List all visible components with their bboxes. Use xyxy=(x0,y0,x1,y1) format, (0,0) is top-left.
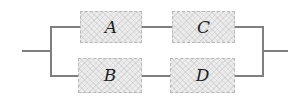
block-c-label: C xyxy=(197,19,210,36)
left-junction-wire xyxy=(50,26,52,77)
wire-block-b-to-block-d xyxy=(142,75,170,77)
wire-block-a-to-block-c xyxy=(142,26,172,28)
wire-block-c-to-junction xyxy=(235,26,264,28)
block-d-label: D xyxy=(196,67,210,84)
wire-block-d-to-junction xyxy=(235,75,264,77)
block-diagram: A C B D xyxy=(0,0,293,104)
input-lead-wire xyxy=(22,50,51,52)
block-a-label: A xyxy=(105,19,117,36)
block-b: B xyxy=(78,58,142,93)
block-d: D xyxy=(170,58,235,93)
wire-junction-to-block-b xyxy=(50,75,79,77)
wire-junction-to-block-a xyxy=(50,26,81,28)
block-c: C xyxy=(172,11,235,43)
block-b-label: B xyxy=(104,67,117,84)
block-a: A xyxy=(80,11,142,43)
output-lead-wire xyxy=(264,50,288,52)
